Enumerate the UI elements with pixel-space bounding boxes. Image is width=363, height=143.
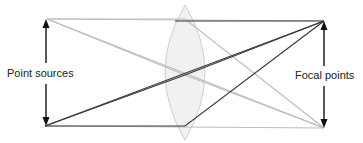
arrow-up-icon	[43, 19, 50, 28]
label-point-sources: Point sources	[6, 67, 75, 80]
label-focal-points: Focal points	[294, 69, 355, 82]
lens-shape	[165, 5, 205, 140]
